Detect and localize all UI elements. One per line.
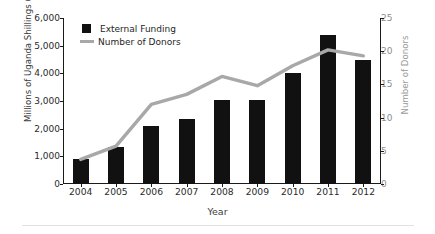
y-tick-label-right: 5 [381,146,403,156]
legend-item-number-of-donors: Number of Donors [82,35,181,48]
y-tick-label-right: 10 [381,113,403,123]
y-tick-mark-left [60,18,63,19]
line-marker-icon [80,40,94,43]
y-axis-left-ticks: 01,0002,0003,0004,0005,0006,000 [20,0,60,234]
y-tick-mark-left [60,73,63,74]
y-tick-mark-right [381,151,384,152]
y-tick-label-right: 25 [381,13,403,23]
y-tick-label-left: 6,000 [22,13,60,23]
chart-figure: Millions of Uganda Shillings (UGX) Numbe… [0,0,435,234]
y-tick-label-left: 0 [22,179,60,189]
legend-item-external-funding: External Funding [82,22,181,35]
y-tick-label-left: 3,000 [22,96,60,106]
legend-label: External Funding [100,24,176,34]
y-tick-mark-left [60,184,63,185]
y-axis-right-ticks: 0510152025 [381,0,407,234]
y-tick-mark-left [60,156,63,157]
y-tick-mark-right [381,118,384,119]
y-tick-mark-left [60,46,63,47]
y-tick-mark-right [381,18,384,19]
footer-divider [22,225,414,226]
chart-legend: External Funding Number of Donors [82,22,181,48]
y-tick-label-left: 5,000 [22,41,60,51]
square-marker-icon [82,24,91,33]
y-tick-mark-right [381,84,384,85]
y-tick-label-left: 1,000 [22,151,60,161]
x-axis-title: Year [0,206,435,217]
y-tick-label-right: 20 [381,46,403,56]
donors-line-path [81,50,364,160]
y-tick-label-left: 4,000 [22,68,60,78]
legend-label: Number of Donors [98,37,181,47]
y-tick-label-left: 2,000 [22,124,60,134]
x-tick-label: 2012 [341,186,385,197]
y-tick-mark-right [381,184,384,185]
y-tick-label-right: 15 [381,79,403,89]
y-tick-mark-right [381,51,384,52]
y-tick-mark-left [60,101,63,102]
y-tick-mark-left [60,129,63,130]
